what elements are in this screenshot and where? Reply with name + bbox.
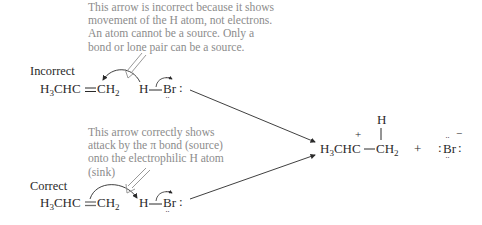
correct-double-bond bbox=[85, 202, 96, 206]
incorrect-double-bond bbox=[85, 88, 96, 92]
hollow-pointer-incorrect bbox=[125, 53, 146, 78]
correct-bond-to-br-arrow bbox=[156, 192, 172, 201]
reaction-arrow-upper bbox=[190, 90, 315, 142]
arrows-and-bonds bbox=[0, 0, 482, 225]
hollow-pointer-correct bbox=[126, 168, 150, 193]
incorrect-curved-arrow bbox=[103, 70, 140, 82]
reaction-arrow-lower bbox=[190, 155, 315, 199]
incorrect-bond-to-br-arrow bbox=[156, 78, 172, 87]
